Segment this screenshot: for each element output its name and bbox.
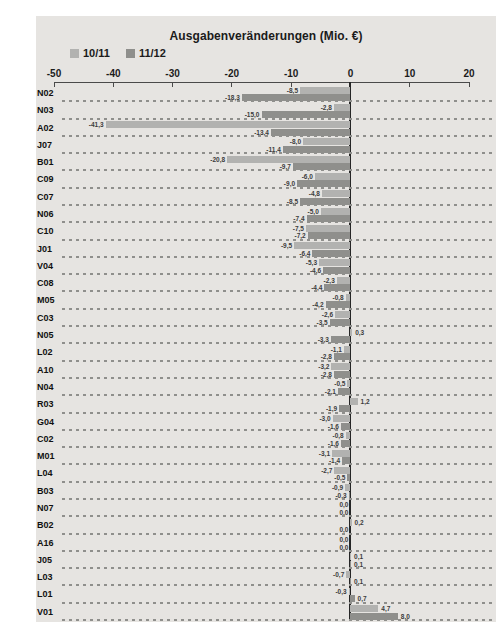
bar-10-11 <box>346 294 351 301</box>
category-label: A10 <box>37 365 69 376</box>
category-row: A10-3,2-2,8 <box>54 362 469 379</box>
category-label: N07 <box>37 503 69 514</box>
bar-10-11 <box>106 121 351 128</box>
bar-10-11 <box>321 208 351 215</box>
category-label: M01 <box>37 451 69 462</box>
bar-10-11 <box>346 432 351 439</box>
category-row: N03-2,8-15,0 <box>54 102 469 119</box>
value-label: -0,8 <box>332 294 343 301</box>
value-label: -0,9 <box>332 484 343 491</box>
x-tick-label: 10 <box>404 68 415 79</box>
legend-item-10-11: 10/11 <box>70 47 110 59</box>
category-row: N050,3-3,3 <box>54 327 469 344</box>
category-label: G04 <box>37 417 69 428</box>
value-label: -4,8 <box>309 190 320 197</box>
category-label: M05 <box>37 295 69 306</box>
value-label: -9,5 <box>281 242 292 249</box>
category-label: A16 <box>37 538 69 549</box>
category-label: A02 <box>37 123 69 134</box>
value-label: 0,1 <box>354 553 363 560</box>
value-label: -5,0 <box>308 208 319 215</box>
bar-10-11 <box>300 87 350 94</box>
category-label: C08 <box>37 278 69 289</box>
value-label: -2,3 <box>324 277 335 284</box>
bar-10-11 <box>322 190 350 197</box>
category-label: J05 <box>37 555 69 566</box>
category-label: C02 <box>37 434 69 445</box>
x-axis-line <box>54 82 469 83</box>
category-label: L01 <box>37 589 69 600</box>
legend-swatch-10-11 <box>70 49 79 58</box>
category-row: C09-6,0-9,0 <box>54 171 469 188</box>
category-row: C07-4,8-8,5 <box>54 189 469 206</box>
chart-area: -50-40-30-20-1001020 N02-8,5-18,3N03-2,8… <box>54 68 469 624</box>
value-label: 0,3 <box>355 329 364 336</box>
category-row: J050,10,1 <box>54 552 469 569</box>
x-tick-label: -20 <box>225 68 239 79</box>
value-label: -8,0 <box>290 138 301 145</box>
bar-10-11 <box>337 277 351 284</box>
bar-10-11 <box>347 380 350 387</box>
bar-10-11 <box>306 225 350 232</box>
category-row: J07-8,0-11,4 <box>54 137 469 154</box>
bar-10-11 <box>315 173 351 180</box>
bar-10-11 <box>344 346 351 353</box>
row-separator <box>62 619 492 621</box>
category-label: C10 <box>37 226 69 237</box>
category-label: N05 <box>37 330 69 341</box>
category-row: G04-3,0-1,6 <box>54 414 469 431</box>
value-label: -3,0 <box>319 415 330 422</box>
value-label: -8,5 <box>287 87 298 94</box>
x-tick-label: -30 <box>165 68 179 79</box>
category-row: V014,78,0 <box>54 604 469 621</box>
bar-10-11 <box>227 156 350 163</box>
bar-10-11 <box>294 242 350 249</box>
category-label: V01 <box>37 607 69 618</box>
category-label: L04 <box>37 468 69 479</box>
category-row: B03-0,9-0,3 <box>54 483 469 500</box>
category-label: L03 <box>37 572 69 583</box>
category-row: A02-41,3-13,4 <box>54 120 469 137</box>
value-label: -2,7 <box>321 467 332 474</box>
category-row: M01-3,1-1,4 <box>54 448 469 465</box>
category-row: L04-2,7-0,5 <box>54 465 469 482</box>
category-label: V04 <box>37 261 69 272</box>
value-label: -20,8 <box>210 156 225 163</box>
category-row: L03-0,70,1 <box>54 569 469 586</box>
bar-10-11 <box>346 571 350 578</box>
category-label: R03 <box>37 399 69 410</box>
value-label: -3,2 <box>318 363 329 370</box>
category-row: A160,00,0 <box>54 535 469 552</box>
value-label: 0,2 <box>355 519 364 526</box>
legend-item-11-12: 11/12 <box>126 47 166 59</box>
category-row: C02-0,8-1,6 <box>54 431 469 448</box>
category-label: B03 <box>37 486 69 497</box>
value-label: -41,3 <box>89 121 104 128</box>
x-tick-label: -40 <box>106 68 120 79</box>
value-label: 4,7 <box>381 605 390 612</box>
category-label: C09 <box>37 174 69 185</box>
legend-label-11-12: 11/12 <box>139 47 166 59</box>
bar-10-11 <box>331 363 350 370</box>
category-label: J07 <box>37 140 69 151</box>
bar-10-11 <box>350 553 351 560</box>
category-row: R031,2-1,9 <box>54 396 469 413</box>
category-row: L01-0,30,7 <box>54 586 469 603</box>
chart-panel: Ausgabenveränderungen (Mio. €) 10/11 11/… <box>36 16 496 622</box>
category-row: B020,20,0 <box>54 517 469 534</box>
category-label: B01 <box>37 157 69 168</box>
legend-swatch-11-12 <box>126 49 135 58</box>
chart-title: Ausgabenveränderungen (Mio. €) <box>36 29 496 43</box>
category-row: N06-5,0-7,4 <box>54 206 469 223</box>
category-label: N02 <box>37 88 69 99</box>
category-row: C08-2,3-4,4 <box>54 275 469 292</box>
legend: 10/11 11/12 <box>70 47 166 59</box>
category-label: B02 <box>37 520 69 531</box>
category-row: J01-9,5-6,4 <box>54 241 469 258</box>
value-label: 0,0 <box>339 501 348 508</box>
category-label: C03 <box>37 313 69 324</box>
category-label: N03 <box>37 105 69 116</box>
bar-10-11 <box>345 484 350 491</box>
x-tick-label: 0 <box>348 68 354 79</box>
legend-label-10-11: 10/11 <box>83 47 110 59</box>
